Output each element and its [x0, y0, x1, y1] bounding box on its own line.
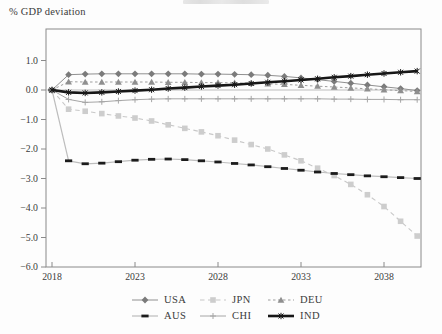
- y-tick-label: 0.0: [26, 84, 38, 95]
- AUS-marker: [98, 162, 105, 165]
- CHI-marker: [115, 98, 121, 104]
- JPN-marker: [182, 126, 188, 132]
- JPN-marker: [149, 118, 155, 124]
- JPN-marker: [398, 218, 404, 224]
- CHI-marker: [149, 96, 155, 102]
- CHI-marker: [331, 96, 337, 102]
- DEU-marker: [98, 79, 105, 85]
- CHI-marker: [298, 96, 304, 102]
- CHI-marker: [182, 96, 188, 102]
- legend-row: USAJPNDEU: [131, 292, 335, 307]
- AUS-marker: [214, 161, 221, 164]
- chart-legend: USAJPNDEUAUSCHIIND: [0, 292, 442, 323]
- AUS-marker: [165, 158, 172, 161]
- gdp-deviation-line-chart: 1.00.0−1.0−2.0−3.0−4.0−5.0−6.02018202320…: [0, 0, 442, 290]
- CHI-marker: [381, 96, 387, 102]
- USA-marker: [198, 71, 205, 78]
- CHI-marker: [265, 96, 271, 102]
- DEU-legend-swatch: [267, 295, 295, 305]
- USA-marker: [181, 70, 188, 77]
- JPN-marker: [365, 192, 371, 198]
- USA-marker: [148, 70, 155, 77]
- JPN-marker: [414, 233, 420, 239]
- USA-marker: [215, 71, 222, 78]
- legend-label-AUS: AUS: [164, 310, 186, 321]
- DEU-marker: [148, 79, 155, 85]
- CHI-marker: [348, 96, 354, 102]
- AUS-marker: [181, 158, 188, 161]
- USA-marker: [115, 70, 122, 77]
- CHI-marker: [248, 96, 254, 102]
- AUS-marker: [148, 158, 155, 161]
- x-axis: 20182023202820332038: [42, 262, 394, 282]
- AUS-marker: [331, 172, 338, 175]
- CHI-marker: [215, 96, 221, 102]
- legend-item-USA: USA: [131, 292, 199, 307]
- USA-legend-swatch: [131, 295, 159, 305]
- legend-row: AUSCHIIND: [131, 308, 335, 323]
- JPN-marker: [232, 137, 238, 143]
- CHI-marker: [82, 99, 88, 105]
- y-tick-label: −2.0: [20, 143, 38, 154]
- CHI-marker: [165, 96, 171, 102]
- x-tick-label: 2028: [208, 271, 228, 282]
- CHI-marker: [132, 97, 138, 103]
- JPN-marker: [132, 115, 138, 121]
- legend-label-USA: USA: [164, 294, 186, 305]
- JPN-marker: [215, 133, 221, 139]
- y-tick-label: −1.0: [20, 114, 38, 125]
- legend-item-IND: IND: [267, 308, 335, 323]
- USA-marker: [82, 71, 89, 78]
- y-tick-label: −3.0: [20, 173, 38, 184]
- JPN-marker: [165, 122, 171, 128]
- AUS-marker: [297, 169, 304, 172]
- IND-legend-swatch: [267, 311, 295, 321]
- CHI-legend-swatch: [199, 311, 227, 321]
- CHI-marker: [198, 96, 204, 102]
- JPN-marker: [82, 108, 88, 114]
- USA-marker: [248, 71, 255, 78]
- JPN-marker: [248, 142, 254, 148]
- AUS-legend-swatch: [131, 311, 159, 321]
- legend-label-CHI: CHI: [232, 310, 251, 321]
- USA-marker: [98, 70, 105, 77]
- legend-item-DEU: DEU: [267, 292, 335, 307]
- AUS-marker: [231, 162, 238, 165]
- AUS-marker: [65, 159, 72, 162]
- AUS-marker: [380, 175, 387, 178]
- legend-label-IND: IND: [300, 310, 320, 321]
- y-tick-label: 1.0: [26, 55, 38, 66]
- CHI-marker: [315, 96, 321, 102]
- x-tick-label: 2033: [291, 271, 311, 282]
- figure: % GDP deviation 1.00.0−1.0−2.0−3.0−4.0−5…: [0, 0, 442, 334]
- JPN-marker: [116, 113, 122, 119]
- AUS-marker: [82, 162, 89, 165]
- JPN-marker: [265, 146, 271, 152]
- AUS-marker: [347, 173, 354, 176]
- AUS-marker: [131, 159, 138, 162]
- CHI-marker: [398, 97, 404, 103]
- JPN-marker: [199, 129, 205, 135]
- AUS-marker: [264, 165, 271, 168]
- JPN-legend-swatch: [199, 295, 227, 305]
- AUS-marker: [397, 176, 404, 179]
- USA-marker: [231, 71, 238, 78]
- y-tick-label: −5.0: [20, 232, 38, 243]
- CHI-marker: [232, 96, 238, 102]
- JPN-marker: [99, 111, 105, 117]
- AUS-marker: [248, 164, 255, 167]
- CHI-marker: [414, 97, 420, 103]
- AUS-marker: [314, 171, 321, 174]
- AUS-marker: [115, 160, 122, 163]
- CHI-marker: [281, 96, 287, 102]
- JPN-marker: [315, 165, 321, 171]
- USA-marker: [132, 70, 139, 77]
- legend-item-JPN: JPN: [199, 292, 267, 307]
- y-tick-label: −4.0: [20, 202, 38, 213]
- USA-marker: [165, 70, 172, 77]
- y-tick-label: −6.0: [20, 261, 38, 272]
- JPN-marker: [282, 152, 288, 158]
- y-axis: 1.00.0−1.0−2.0−3.0−4.0−5.0−6.0: [20, 55, 46, 273]
- DEU-marker: [82, 79, 89, 85]
- JPN-marker: [298, 158, 304, 164]
